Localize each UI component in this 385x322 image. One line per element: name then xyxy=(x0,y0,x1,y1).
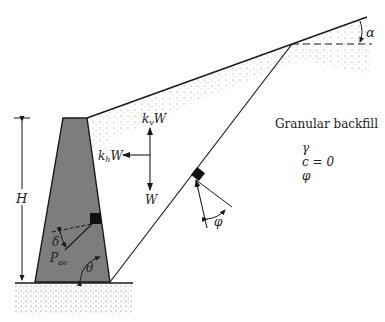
failure-plane-block xyxy=(191,167,205,181)
foundation-soil xyxy=(15,283,133,313)
kh-label: khW xyxy=(98,149,124,164)
theta-label: θ xyxy=(86,261,94,275)
backfill-phi: φ xyxy=(302,169,311,183)
backfill-cohesion: c = 0 xyxy=(302,155,334,169)
backfill-title: Granular backfill xyxy=(275,117,378,131)
kv-label: kvW xyxy=(142,112,168,127)
height-label: H xyxy=(15,191,28,206)
phi-wedge-label: φ xyxy=(214,215,223,229)
wall-face-block xyxy=(90,213,101,224)
backfill-slope-line xyxy=(87,17,367,118)
alpha-label: α xyxy=(366,25,375,40)
retaining-wall-diagram: α H kvW khW W φ δ Pae θ Granular backfil… xyxy=(0,0,385,322)
backfill-gamma: γ xyxy=(302,141,310,155)
delta-label: δ xyxy=(52,235,59,249)
weight-label: W xyxy=(145,193,159,207)
